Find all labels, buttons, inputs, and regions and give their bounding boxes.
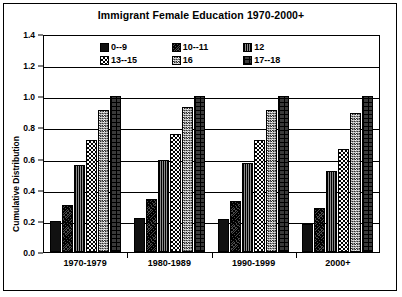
bar [170,134,181,252]
legend-swatch-icon [172,43,181,52]
legend-item: 0--9 [100,41,172,54]
y-tick-label: 0.4 [23,186,35,196]
legend-swatch-icon [100,43,109,52]
bar [134,218,145,252]
bar [194,96,205,252]
bar [326,171,337,252]
chart-container: Immigrant Female Education 1970-2000+ Cu… [0,0,402,297]
bar [62,205,73,252]
chart-title: Immigrant Female Education 1970-2000+ [0,9,402,21]
bar [314,208,325,252]
bar-group [44,36,128,252]
y-tick-label: 0.8 [23,123,35,133]
x-axis-labels: 1970-19791980-19891990-19992000+ [43,258,380,278]
y-tick-label: 1.0 [23,92,35,102]
legend-item: 12 [243,41,315,54]
bar [98,110,109,252]
bar-groups [44,36,379,252]
y-axis-title: Cumulative Distribution [11,104,21,264]
legend-item: 17--18 [243,54,315,67]
bar [146,199,157,252]
legend-label: 16 [183,56,193,65]
chart-legend: 0--910--111213--151617--18 [100,41,315,67]
y-tick-label: 0.6 [23,155,35,165]
plot-area [43,35,380,253]
bar [86,140,97,252]
bar-group [295,36,379,252]
bar [74,165,85,252]
bar [50,221,61,252]
legend-swatch-icon [100,56,109,65]
y-tick-label: 0.2 [23,217,35,227]
y-tick-label: 1.2 [23,61,35,71]
legend-swatch-icon [243,56,252,65]
x-axis-label: 1970-1979 [43,258,127,278]
legend-label: 13--15 [111,56,137,65]
legend-swatch-icon [243,43,252,52]
bar [254,140,265,252]
bar [218,219,229,252]
y-tick-label: 1.4 [23,30,35,40]
bar [110,96,121,252]
legend-swatch-icon [172,56,181,65]
bar [338,149,349,252]
legend-item: 10--11 [172,41,244,54]
y-axis: Cumulative Distribution 0.00.20.40.60.81… [0,35,43,253]
legend-label: 10--11 [183,43,209,52]
bar [278,96,289,252]
legend-label: 17--18 [254,56,280,65]
x-axis-label: 2000+ [296,258,380,278]
bar [158,160,169,252]
bar [302,224,313,252]
y-tick-label: 0.0 [23,248,35,258]
bar [182,107,193,252]
bar-group [128,36,212,252]
legend-item: 13--15 [100,54,172,67]
x-axis-label: 1990-1999 [212,258,296,278]
bar [266,110,277,252]
bar [350,113,361,252]
legend-label: 0--9 [111,43,127,52]
bar [230,201,241,252]
bar [362,96,373,252]
x-axis-label: 1980-1989 [127,258,211,278]
bar [242,163,253,252]
legend-label: 12 [254,43,264,52]
legend-item: 16 [172,54,244,67]
bar-group [212,36,296,252]
